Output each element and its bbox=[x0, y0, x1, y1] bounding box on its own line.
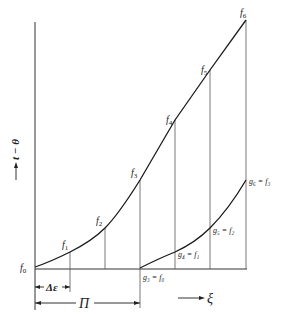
label-f2: f2 bbox=[96, 215, 103, 228]
right-arrow-icon bbox=[199, 296, 205, 300]
label-g6: g₆ = f₃ bbox=[249, 177, 270, 186]
label-g5: g₅ = f₂ bbox=[213, 226, 234, 235]
label-f0: f0 bbox=[20, 262, 27, 275]
label-g4: g₄ = f₁ bbox=[178, 250, 199, 259]
up-arrow-icon bbox=[14, 162, 18, 168]
label-f5: f5 bbox=[201, 64, 208, 77]
label-g3: g₃ = f₀ bbox=[143, 273, 164, 282]
label-f4: f4 bbox=[166, 114, 173, 127]
label-f3: f3 bbox=[131, 167, 138, 180]
y-axis-label: t − θ bbox=[9, 139, 21, 160]
period-label: Π bbox=[78, 296, 90, 311]
arrow-right-icon bbox=[65, 285, 70, 289]
x-axis-label: ξ bbox=[207, 291, 213, 306]
arrow-left-icon bbox=[35, 285, 40, 289]
diagram-canvas: f0 f1 f2 f3 f4 f5 f6 g₃ = f₀ g₄ = f₁ g₅ … bbox=[0, 0, 286, 313]
arrow-left-icon bbox=[35, 301, 41, 305]
label-f6: f6 bbox=[240, 7, 247, 20]
label-f1: f1 bbox=[62, 239, 69, 252]
arrow-right-icon bbox=[134, 301, 140, 305]
delta-label: Δε bbox=[45, 281, 58, 293]
